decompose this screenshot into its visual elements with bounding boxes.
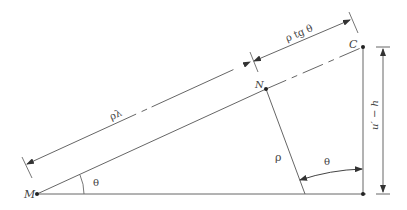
label-vertical-dimension: u′ − h (369, 100, 380, 130)
diagram-canvas: M N C ρλ ρ tg θ ρ θ θ u′ − h (0, 0, 407, 210)
point-foot-c (361, 192, 365, 196)
label-rho-lambda: ρλ (108, 107, 124, 122)
point-n (264, 87, 268, 91)
line-n-to-c (266, 47, 363, 89)
extension-tick-m (22, 157, 32, 178)
label-rho: ρ (275, 151, 281, 164)
label-rho-tg-theta: ρ tg θ (284, 22, 315, 43)
label-m: M (23, 188, 36, 201)
point-c (361, 45, 365, 49)
label-theta-m: θ (93, 177, 99, 188)
extension-tick-n (250, 52, 258, 72)
label-n: N (254, 79, 265, 90)
angle-arc-m (80, 175, 84, 194)
line-m-to-n (37, 89, 266, 194)
perpendicular-rho (266, 89, 305, 194)
label-theta-foot: θ (324, 156, 330, 167)
angle-arc-foot (300, 169, 362, 180)
dimension-line-rho-lambda (27, 62, 250, 164)
label-c: C (349, 38, 358, 51)
point-m (35, 192, 39, 196)
extension-tick-c (349, 12, 358, 33)
